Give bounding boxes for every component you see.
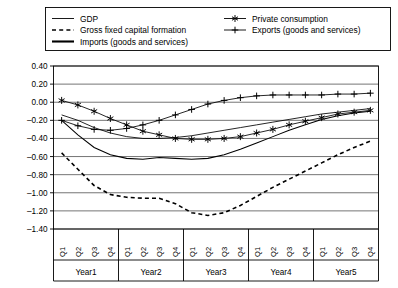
quarter-label: Q2 (139, 247, 148, 257)
y-tick-label: 0.00 (32, 98, 48, 107)
y-tick-label: –0.80 (27, 171, 48, 180)
quarter-label: Q1 (188, 247, 197, 257)
quarter-label: Q3 (285, 247, 294, 257)
quarter-label: Q1 (123, 247, 132, 257)
quarter-label: Q3 (90, 247, 99, 257)
quarter-label: Q1 (253, 247, 262, 257)
y-tick-label: –0.60 (27, 153, 48, 162)
quarter-label: Q4 (236, 247, 245, 257)
y-tick-label: –1.40 (27, 225, 48, 234)
legend-label: Private consumption (252, 14, 328, 24)
y-tick-label: 0.20 (32, 80, 48, 89)
y-tick-label: 0.40 (32, 62, 48, 71)
y-tick-label: –0.40 (27, 134, 48, 143)
quarter-label: Q2 (204, 247, 213, 257)
quarter-label: Q3 (350, 247, 359, 257)
year-label: Year3 (205, 268, 227, 277)
quarter-label: Q3 (155, 247, 164, 257)
quarter-label: Q1 (58, 247, 67, 257)
year-label: Year4 (270, 268, 292, 277)
quarter-label: Q4 (366, 247, 375, 257)
year-label: Year5 (335, 268, 357, 277)
quarter-label: Q4 (171, 247, 180, 257)
y-tick-label: –0.20 (27, 116, 48, 125)
year-label: Year2 (140, 268, 162, 277)
legend-label: GDP (80, 14, 99, 24)
y-tick-label: –1.20 (27, 207, 48, 216)
quarter-label: Q4 (106, 247, 115, 257)
chart-container: GDPGross fixed capital formationImports … (0, 0, 398, 288)
quarter-label: Q2 (269, 247, 278, 257)
quarter-label: Q2 (334, 247, 343, 257)
year-label: Year1 (75, 268, 97, 277)
economic-indicators-line-chart: GDPGross fixed capital formationImports … (0, 0, 398, 288)
chart-legend: GDPGross fixed capital formationImports … (46, 8, 391, 51)
quarter-label: Q2 (74, 247, 83, 257)
legend-label: Imports (goods and services) (80, 37, 188, 47)
quarter-label: Q3 (220, 247, 229, 257)
y-tick-label: –1.00 (27, 189, 48, 198)
legend-label: Exports (goods and services) (252, 25, 361, 35)
quarter-label: Q1 (318, 247, 327, 257)
legend-label: Gross fixed capital formation (80, 25, 186, 35)
quarter-label: Q4 (301, 247, 310, 257)
